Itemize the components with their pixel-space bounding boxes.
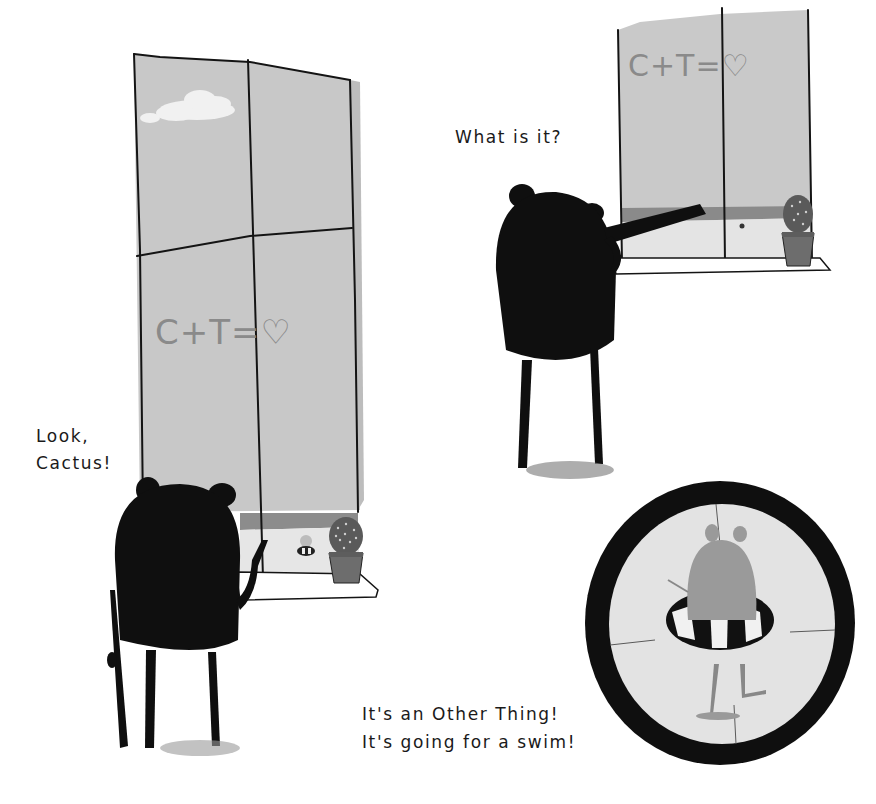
- window-graffiti-right: C+T=♡: [628, 48, 749, 83]
- telescope-view: [585, 481, 855, 765]
- illustration: C+T=♡: [0, 0, 876, 804]
- caption-line: Look,: [36, 423, 112, 450]
- caption-other-thing: It's an Other Thing! It's going for a sw…: [362, 700, 576, 756]
- caption-line: What is it?: [455, 124, 562, 151]
- book-page: C+T=♡: [0, 0, 876, 804]
- caption-look-cactus: Look, Cactus!: [36, 423, 112, 477]
- shadow-left: [160, 740, 240, 756]
- caption-line: It's an Other Thing!: [362, 700, 576, 728]
- right-window: C+T=♡: [612, 8, 830, 274]
- caption-line: Cactus!: [36, 450, 112, 477]
- caption-what-is-it: What is it?: [455, 124, 562, 151]
- caption-line: It's going for a swim!: [362, 728, 576, 756]
- window-graffiti: C+T=♡: [155, 312, 292, 352]
- shadow-right: [526, 461, 614, 479]
